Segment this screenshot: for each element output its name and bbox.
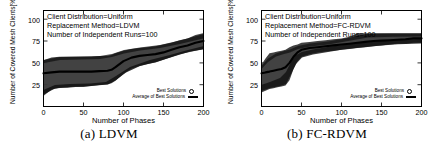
legend: Best Solutions Average of Best Solutions: [346, 88, 418, 100]
x-axis-label: Number of Phases: [43, 116, 204, 125]
legend-label-average-best-solutions: Average of Best Solutions: [132, 94, 185, 100]
y-tick-label-75: 75: [240, 37, 258, 46]
chart-panel-fc-rdvm: Number of Covered Mesh Clients[%] 100 75…: [218, 0, 436, 155]
y-tick-label-100: 100: [240, 16, 258, 25]
y-axis-label: Number of Covered Mesh Clients[%]: [227, 0, 234, 104]
legend-entry-average-best-solutions: Average of Best Solutions: [346, 94, 418, 100]
legend-marker-line-icon: [406, 96, 416, 98]
annotation-client-distribution: Client Distribution=Uniform: [265, 12, 376, 21]
y-tick-label-25: 25: [240, 81, 258, 90]
figure-container: Number of Covered Mesh Clients[%] 100 75…: [0, 0, 436, 155]
annotation-block: Client Distribution=Uniform Replacement …: [265, 12, 376, 40]
panel-caption-fc-rdvm: (b) FC-RDVM: [218, 126, 436, 142]
legend-marker-circle-icon: [189, 89, 194, 94]
annotation-independent-runs: Number of Independent Runs=100: [47, 30, 158, 39]
legend: Best Solutions Average of Best Solutions: [128, 88, 200, 100]
y-tick-label-75: 75: [22, 37, 40, 46]
legend-marker-circle-icon: [407, 89, 412, 94]
y-axis-label: Number of Covered Mesh Clients[%]: [9, 0, 16, 104]
annotation-replacement-method: Replacement Method=LDVM: [47, 21, 158, 30]
y-tick-label-50: 50: [22, 59, 40, 68]
y-tick-label-100: 100: [22, 16, 40, 25]
annotation-independent-runs: Number of Independent Runs=100: [265, 30, 376, 39]
legend-entry-average-best-solutions: Average of Best Solutions: [128, 94, 200, 100]
plot-area-fc-rdvm: Number of Covered Mesh Clients[%] 100 75…: [218, 0, 436, 126]
legend-label-average-best-solutions: Average of Best Solutions: [350, 94, 403, 100]
annotation-block: Client Distribution=Uniform Replacement …: [47, 12, 158, 40]
chart-panel-ldvm: Number of Covered Mesh Clients[%] 100 75…: [0, 0, 218, 155]
panel-caption-ldvm: (a) LDVM: [0, 126, 218, 142]
annotation-client-distribution: Client Distribution=Uniform: [47, 12, 158, 21]
y-tick-label-25: 25: [22, 81, 40, 90]
plot-area-ldvm: Number of Covered Mesh Clients[%] 100 75…: [0, 0, 218, 126]
y-tick-label-50: 50: [240, 59, 258, 68]
x-axis-label: Number of Phases: [261, 116, 422, 125]
annotation-replacement-method: Replacement Method=FC-RDVM: [265, 21, 376, 30]
legend-marker-line-icon: [188, 96, 198, 98]
